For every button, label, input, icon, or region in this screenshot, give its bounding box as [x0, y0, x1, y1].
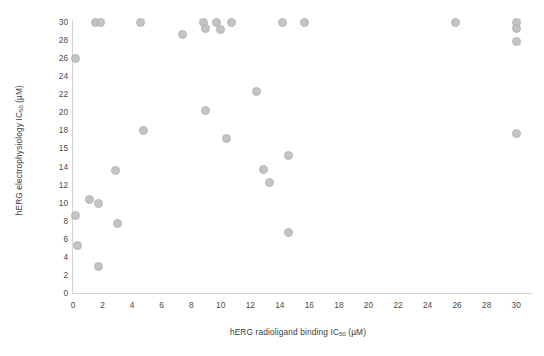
y-axis-title-subscript: 50: [18, 105, 24, 112]
y-axis-tick-label: 22: [44, 90, 68, 98]
data-point: [222, 134, 231, 143]
x-axis-tick-label: 8: [189, 301, 194, 309]
x-axis-tick-label: 10: [216, 301, 225, 309]
data-point: [300, 18, 309, 27]
y-axis-tick-label: 30: [44, 18, 68, 26]
x-axis-tick-label: 2: [100, 301, 105, 309]
x-axis-title-prefix: hERG radioligand binding IC: [230, 327, 339, 337]
x-axis-line: [72, 293, 532, 294]
data-point: [451, 18, 460, 27]
data-point: [96, 18, 105, 27]
y-axis-tick-label: 20: [44, 108, 68, 116]
x-axis-title-suffix: (µM): [346, 327, 366, 337]
y-axis-tick-label: 14: [44, 162, 68, 170]
data-point: [252, 87, 261, 96]
data-point: [259, 165, 268, 174]
x-axis-title: hERG radioligand binding IC50 (µM): [73, 327, 523, 337]
y-axis-tick-label: 8: [44, 217, 68, 225]
y-axis-tick-label: 2: [44, 271, 68, 279]
y-axis-tick-label: 24: [44, 72, 68, 80]
y-axis-tick-label: 10: [44, 199, 68, 207]
y-axis-tick-label: 18: [44, 126, 68, 134]
x-axis-tick-label: 28: [482, 301, 491, 309]
x-axis-tick-labels: 024681012141618202224262830: [0, 301, 544, 315]
x-axis-tick-label: 14: [275, 301, 284, 309]
y-axis-tick-label: 4: [44, 253, 68, 261]
x-axis-tick-label: 18: [334, 301, 343, 309]
data-point: [94, 199, 103, 208]
x-axis-tick-label: 16: [305, 301, 314, 309]
data-point: [227, 18, 236, 27]
data-point: [85, 195, 94, 204]
data-point: [178, 30, 187, 39]
x-axis-tick-label: 24: [423, 301, 432, 309]
data-point: [284, 228, 293, 237]
y-axis-title-prefix: hERG electrophysiology IC: [14, 112, 24, 215]
data-point: [94, 262, 103, 271]
y-axis-tick-label: 28: [44, 36, 68, 44]
data-point: [71, 54, 80, 63]
y-axis-tick-label: 15: [44, 144, 68, 152]
x-axis-tick-label: 22: [393, 301, 402, 309]
y-axis-title-text: hERG electrophysiology IC50 (µM): [14, 85, 24, 215]
x-axis-tick-label: 26: [453, 301, 462, 309]
y-axis-tick-label: 6: [44, 235, 68, 243]
x-axis-tick-label: 6: [159, 301, 164, 309]
y-axis-tick-label: 26: [44, 54, 68, 62]
data-point: [73, 241, 82, 250]
scatter-chart-figure: hERG electrophysiology IC50 (µM) 3028262…: [0, 0, 544, 356]
data-point: [512, 129, 521, 138]
data-point: [139, 126, 148, 135]
x-axis-title-subscript: 50: [339, 331, 346, 337]
data-point: [201, 106, 210, 115]
x-axis-tick-label: 20: [364, 301, 373, 309]
plot-area: [73, 22, 531, 293]
data-point: [512, 37, 521, 46]
data-point: [136, 18, 145, 27]
data-point: [265, 178, 274, 187]
data-point: [111, 166, 120, 175]
y-axis-tick-label: 0: [44, 289, 68, 297]
x-axis-tick-label: 30: [512, 301, 521, 309]
data-point: [512, 24, 521, 33]
data-point: [71, 211, 80, 220]
y-axis-title: hERG electrophysiology IC50 (µM): [6, 0, 32, 300]
x-axis-tick-label: 12: [246, 301, 255, 309]
x-axis-tick-label: 0: [71, 301, 76, 309]
y-axis-title-suffix: (µM): [14, 85, 24, 105]
data-point: [216, 25, 225, 34]
data-point: [278, 18, 287, 27]
y-axis-tick-label: 12: [44, 180, 68, 188]
data-point: [113, 219, 122, 228]
x-axis-tick-label: 4: [130, 301, 135, 309]
data-point: [284, 151, 293, 160]
data-point: [201, 24, 210, 33]
